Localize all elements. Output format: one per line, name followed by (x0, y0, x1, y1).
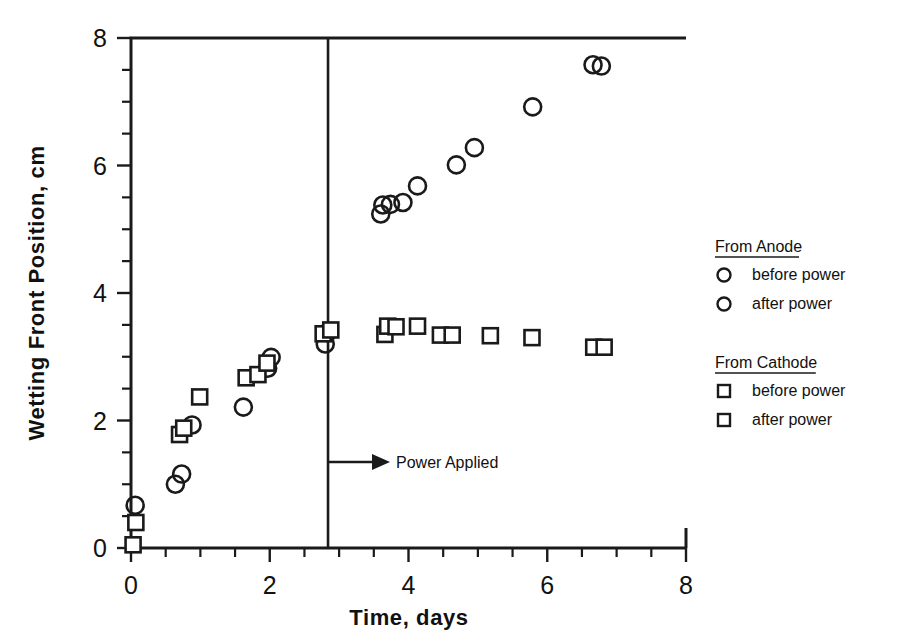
data-point-square (410, 319, 425, 334)
x-tick-label: 8 (679, 571, 693, 599)
y-tick-label: 8 (93, 24, 107, 52)
legend-heading: From Cathode (715, 354, 817, 371)
x-axis-title: Time, days (349, 605, 468, 630)
y-tick-label: 2 (93, 407, 107, 435)
data-point-square (597, 340, 612, 355)
legend-entry-label: after power (752, 411, 833, 428)
legend-entry-label: before power (752, 266, 846, 283)
x-tick-label: 4 (402, 571, 416, 599)
data-point-square (126, 537, 141, 552)
legend-heading: From Anode (715, 238, 802, 255)
data-point-square (259, 356, 274, 371)
y-tick-label: 4 (93, 279, 107, 307)
power-applied-label: Power Applied (396, 454, 498, 471)
x-tick-label: 0 (124, 571, 138, 599)
y-tick-label: 0 (93, 534, 107, 562)
legend-entry-label: after power (752, 295, 833, 312)
data-point-square (524, 330, 539, 345)
data-point-square (176, 421, 191, 436)
wetting-front-scatter-chart: 02468 02468 Time, days Wetting Front Pos… (0, 0, 899, 641)
x-tick-label: 6 (540, 571, 554, 599)
legend-marker-square (718, 414, 730, 426)
data-point-square (483, 328, 498, 343)
y-tick-label: 6 (93, 152, 107, 180)
data-point-square (445, 328, 460, 343)
figure-container: 02468 02468 Time, days Wetting Front Pos… (0, 0, 899, 641)
x-tick-label: 2 (263, 571, 277, 599)
legend-marker-square (718, 385, 730, 397)
data-point-square (192, 389, 207, 404)
data-point-square (389, 319, 404, 334)
y-axis-title: Wetting Front Position, cm (24, 145, 49, 440)
legend-entry-label: before power (752, 382, 846, 399)
data-point-square (323, 322, 338, 337)
data-point-square (128, 515, 143, 530)
